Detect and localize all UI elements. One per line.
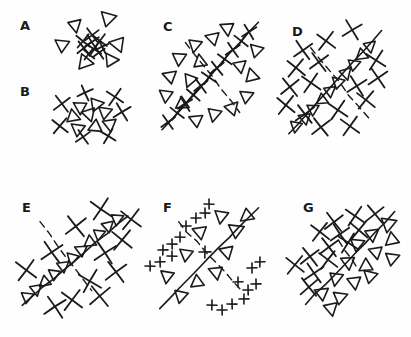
triangle-marker: [233, 61, 246, 74]
triangle-marker: [99, 107, 113, 120]
plus-marker: [155, 257, 165, 267]
panel-label-c: C: [163, 19, 173, 34]
panel-g: G: [286, 200, 400, 316]
panel-c: C: [160, 19, 264, 130]
triangle-marker: [220, 24, 234, 37]
data-points: [55, 12, 123, 69]
panel-e: E: [16, 198, 141, 318]
cross-marker: [366, 50, 385, 69]
cross-marker: [281, 78, 299, 96]
cross-marker: [52, 118, 68, 133]
triangle-marker: [109, 38, 124, 53]
triangle-marker: [91, 98, 104, 111]
triangle-marker: [339, 68, 351, 80]
plus-marker: [145, 261, 155, 271]
cross-marker: [41, 242, 62, 263]
data-points: [286, 205, 400, 316]
cross-marker: [310, 53, 328, 71]
panel-b: B: [20, 84, 131, 144]
cross-marker: [331, 225, 350, 244]
cross-marker: [301, 248, 319, 266]
cross-marker: [101, 129, 116, 144]
triangle-marker: [180, 249, 193, 262]
cross-marker: [325, 213, 343, 231]
cross-marker: [106, 262, 127, 282]
scatter-figure: ABCDEFG: [0, 0, 411, 337]
triangle-marker: [246, 68, 260, 82]
triangle-marker: [161, 271, 174, 284]
cross-marker: [317, 32, 335, 50]
triangle-marker: [191, 274, 204, 287]
triangle-marker: [314, 288, 328, 301]
panel-label-g: G: [303, 200, 314, 215]
triangle-marker: [68, 20, 81, 33]
cross-marker: [277, 96, 294, 114]
triangle-marker: [323, 303, 337, 317]
triangle-marker: [219, 246, 233, 259]
triangle-marker: [330, 273, 343, 286]
cross-marker: [294, 41, 312, 59]
cross-marker: [288, 59, 306, 77]
panel-label-b: B: [20, 84, 30, 99]
panel-label-e: E: [22, 200, 31, 215]
panel-label-a: A: [20, 18, 30, 33]
triangle-marker: [175, 290, 188, 303]
cross-marker: [90, 286, 110, 306]
triangle-marker: [215, 211, 229, 224]
panel-f: F: [145, 199, 265, 315]
cross-marker: [357, 91, 375, 109]
triangle-marker: [160, 90, 174, 103]
triangle-marker: [386, 253, 400, 266]
triangle-marker: [251, 45, 264, 58]
plus-marker: [181, 221, 191, 231]
plus-marker: [247, 263, 257, 273]
panel-label-d: D: [292, 24, 303, 39]
triangle-marker: [208, 267, 222, 280]
cross-marker: [54, 96, 70, 112]
triangle-marker: [102, 12, 117, 27]
cross-marker: [311, 223, 329, 241]
cross-marker: [187, 88, 200, 101]
triangle-marker: [21, 293, 33, 304]
plus-marker: [233, 277, 243, 287]
triangle-marker: [368, 247, 382, 260]
cross-marker: [343, 20, 362, 39]
triangle-marker: [208, 109, 222, 122]
triangle-marker: [192, 227, 206, 240]
solid-boundary-line: [289, 31, 382, 134]
triangle-marker: [240, 92, 254, 104]
cross-marker: [77, 41, 90, 54]
cross-marker: [346, 207, 364, 226]
cross-marker: [66, 216, 86, 236]
cross-marker: [114, 103, 131, 120]
triangle-marker: [189, 40, 202, 53]
triangle-marker: [363, 41, 375, 53]
cross-marker: [341, 117, 360, 136]
cross-marker: [16, 260, 36, 281]
plus-marker: [191, 213, 201, 223]
triangle-marker: [67, 253, 79, 265]
figure-canvas: ABCDEFG: [0, 0, 411, 337]
triangle-marker: [173, 54, 187, 67]
plus-marker: [207, 300, 217, 310]
plus-marker: [227, 299, 237, 309]
cross-marker: [107, 89, 124, 106]
triangle-marker: [359, 258, 373, 271]
triangle-marker: [347, 277, 361, 290]
cross-marker: [302, 74, 321, 93]
cross-marker: [366, 205, 384, 222]
cross-marker: [320, 238, 338, 256]
cross-marker: [91, 198, 112, 219]
cross-marker: [312, 118, 330, 136]
cross-marker: [369, 69, 388, 88]
triangle-marker: [55, 40, 69, 53]
cross-marker: [328, 101, 347, 120]
plus-marker: [175, 232, 185, 242]
triangle-marker: [162, 71, 176, 84]
panel-label-f: F: [163, 200, 172, 215]
triangle-marker: [224, 102, 238, 116]
data-points: [52, 85, 130, 143]
panel-a: A: [20, 12, 123, 69]
plus-marker: [251, 279, 261, 289]
panel-d: D: [277, 20, 387, 136]
